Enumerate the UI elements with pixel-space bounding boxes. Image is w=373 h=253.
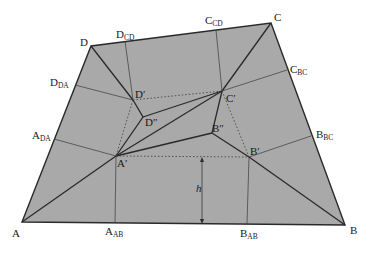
label-b-ab: BAB xyxy=(240,227,258,241)
label-h: h xyxy=(196,182,202,194)
label-c-cd: CCD xyxy=(205,14,223,28)
label-d-prime: D′ xyxy=(135,88,145,100)
quadrilateral-diagram: A B C D DCD CCD CBC BBC DDA ADA AAB BAB … xyxy=(0,0,373,253)
quadrilateral-abcd xyxy=(22,23,345,225)
label-a-prime: A′ xyxy=(117,157,127,169)
label-b-prime: B′ xyxy=(250,145,260,157)
label-d-cd: DCD xyxy=(116,28,135,42)
label-c-prime: C′ xyxy=(226,92,236,104)
label-d: D xyxy=(80,36,88,48)
label-c: C xyxy=(274,11,281,23)
label-d-da: DDA xyxy=(50,76,69,90)
label-b-dprime: B″ xyxy=(212,122,224,134)
label-a-da: ADA xyxy=(32,129,51,143)
label-b: B xyxy=(350,224,357,236)
label-a-ab: AAB xyxy=(105,225,123,239)
label-c-bc: CBC xyxy=(290,63,307,77)
label-d-dprime: D″ xyxy=(145,116,158,128)
label-b-bc: BBC xyxy=(316,128,333,142)
label-a: A xyxy=(12,227,20,239)
